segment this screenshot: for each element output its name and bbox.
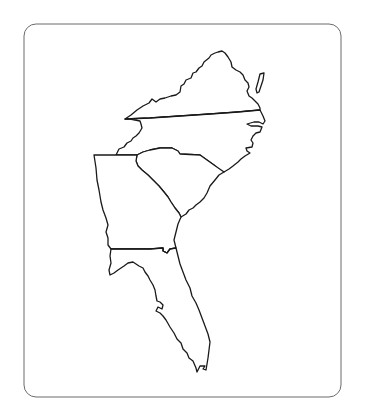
outline-map	[0, 0, 371, 419]
map-frame: Southeastern United States outline map	[0, 0, 371, 419]
